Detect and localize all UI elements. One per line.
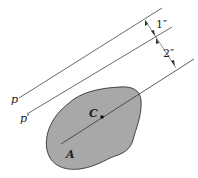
dimension-2-label: 2″: [163, 47, 174, 60]
label-p: p: [11, 93, 18, 106]
arrow-head: [171, 60, 175, 66]
axis-p: [19, 8, 162, 98]
arrow-head: [145, 20, 148, 26]
area-shape: [46, 87, 141, 169]
dimension-1-label: 1″: [156, 18, 167, 31]
area-diagram: 1″ 2″ p p′ C A: [0, 0, 198, 178]
arrow-head: [151, 30, 155, 36]
label-p-prime: p′: [20, 112, 30, 125]
centroid-point: [100, 115, 104, 119]
label-centroid: C: [89, 107, 98, 120]
label-area: A: [65, 148, 75, 161]
